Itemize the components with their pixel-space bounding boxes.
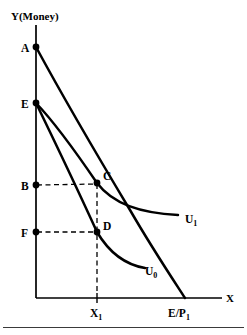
figure-container: Y(Money) X A E B F C D U1 U0 X1 E/P1 <box>0 0 247 335</box>
point-e-dot <box>33 100 40 107</box>
point-c-label: C <box>103 170 111 182</box>
x-tick-label-x1-sub: 1 <box>98 313 102 322</box>
x-tick-label-ep1: E/P1 <box>168 307 190 322</box>
economics-diagram: Y(Money) X A E B F C D U1 U0 X1 E/P1 <box>0 0 247 335</box>
point-a-dot <box>33 44 40 51</box>
x-tick-label-ep1-main: E/P <box>168 307 186 319</box>
point-e-label: E <box>21 98 29 110</box>
point-c-dot <box>94 180 101 187</box>
point-f-label: F <box>21 227 28 239</box>
y-axis-label: Y(Money) <box>11 10 59 23</box>
point-b-dot <box>33 182 40 189</box>
indifference-curve-u0 <box>36 103 145 268</box>
curve-label-u0-sub: 0 <box>153 271 157 280</box>
curve-label-u1: U1 <box>185 213 197 228</box>
point-a-label: A <box>21 42 30 54</box>
curve-label-u0: U0 <box>145 265 157 280</box>
curve-label-u1-sub: 1 <box>193 219 197 228</box>
bottom-divider <box>3 327 244 328</box>
point-f-dot <box>33 229 40 236</box>
x-tick-label-ep1-sub: 1 <box>186 313 190 322</box>
point-d-label: D <box>103 220 111 232</box>
point-d-dot <box>94 229 101 236</box>
indifference-curve-u1 <box>36 103 178 215</box>
x-tick-label-x1: X1 <box>90 307 102 322</box>
x-axis-label: X <box>226 292 234 304</box>
point-b-label: B <box>21 180 29 192</box>
dashed-line-b-to-c <box>37 184 97 185</box>
